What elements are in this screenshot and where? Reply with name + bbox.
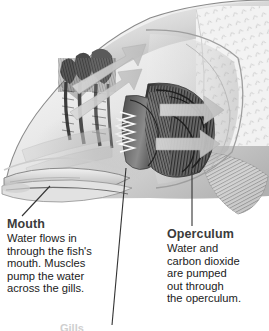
callout-operculum-line-3: are pumped — [167, 267, 269, 280]
cropped-bottom-label: Gills — [60, 322, 200, 331]
fish-respiration-figure: Mouth Water flows in through the fish's … — [0, 0, 269, 331]
callout-mouth-line-5: across the gills. — [7, 282, 111, 295]
callout-operculum-body: Water and carbon dioxide are pumped out … — [167, 242, 269, 305]
callout-operculum-line-1: Water and — [167, 242, 269, 255]
callout-mouth: Mouth Water flows in through the fish's … — [7, 217, 111, 295]
callout-mouth-title: Mouth — [7, 217, 111, 231]
callout-mouth-body: Water flows in through the fish's mouth.… — [7, 232, 111, 295]
callout-mouth-line-3: mouth. Muscles — [7, 257, 111, 270]
callout-operculum-title: Operculum — [167, 227, 269, 241]
callout-mouth-line-2: through the fish's — [7, 245, 111, 258]
callout-operculum: Operculum Water and carbon dioxide are p… — [167, 227, 269, 305]
callout-mouth-line-1: Water flows in — [7, 232, 111, 245]
callout-operculum-line-5: the operculum. — [167, 292, 269, 305]
callout-operculum-line-4: out through — [167, 280, 269, 293]
callout-mouth-line-4: pump the water — [7, 270, 111, 283]
callout-operculum-line-2: carbon dioxide — [167, 255, 269, 268]
